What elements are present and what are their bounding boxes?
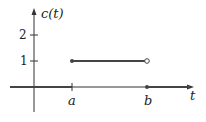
x-tick-label-b: b	[144, 93, 152, 108]
closed-dot-b-axis	[145, 85, 149, 89]
x-axis-label: t	[190, 88, 196, 103]
y-tick-label-2: 2	[19, 28, 27, 42]
closed-dot-a	[70, 59, 74, 63]
y-axis-arrow-icon	[32, 8, 37, 15]
y-axis-label: c(t)	[41, 6, 64, 21]
x-tick-label-a: a	[68, 93, 76, 108]
chart-canvas: c(t) 2 1 a b t	[0, 0, 206, 122]
y-tick-label-1: 1	[20, 54, 28, 68]
open-dot-b	[145, 59, 150, 64]
